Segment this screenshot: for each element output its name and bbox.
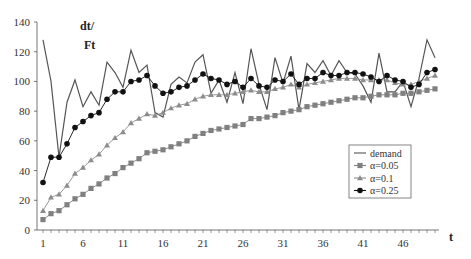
x-tick-label: 41	[358, 237, 369, 249]
y-tick-label: 120	[14, 46, 31, 58]
legend-label: α=0.25	[370, 185, 398, 196]
y-tick-label: 0	[25, 224, 31, 236]
x-tick-label: 11	[118, 237, 129, 249]
x-tick-label: 16	[158, 237, 170, 249]
y-axis-title-line1: dt/	[80, 19, 95, 33]
x-tick-label: 26	[238, 237, 250, 249]
x-tick-label: 6	[80, 237, 86, 249]
y-axis-title-line2: Ft	[84, 38, 95, 52]
legend: demandα=0.05α=0.1α=0.25	[349, 145, 411, 198]
y-axis: 020406080100120140	[14, 16, 38, 236]
y-tick-label: 100	[14, 75, 31, 87]
y-tick-label: 40	[19, 165, 31, 177]
x-tick-label: 31	[278, 237, 289, 249]
legend-label: α=0.1	[370, 173, 393, 184]
x-tick-label: 21	[198, 237, 209, 249]
legend-label: demand	[370, 148, 402, 159]
y-tick-label: 140	[14, 16, 31, 28]
y-tick-label: 20	[19, 194, 31, 206]
x-tick-label: 46	[398, 237, 410, 249]
y-tick-label: 60	[19, 135, 31, 147]
y-tick-label: 80	[19, 105, 31, 117]
x-tick-label: 1	[40, 237, 46, 249]
chart: 020406080100120140 161116212631364146 dt…	[0, 0, 471, 259]
legend-label: α=0.05	[370, 160, 398, 171]
x-axis: 161116212631364146	[37, 230, 439, 249]
x-axis-title: t	[449, 230, 453, 244]
x-tick-label: 36	[318, 237, 330, 249]
series-demand	[43, 40, 435, 157]
y-axis-title: dt/ Ft	[80, 19, 95, 52]
